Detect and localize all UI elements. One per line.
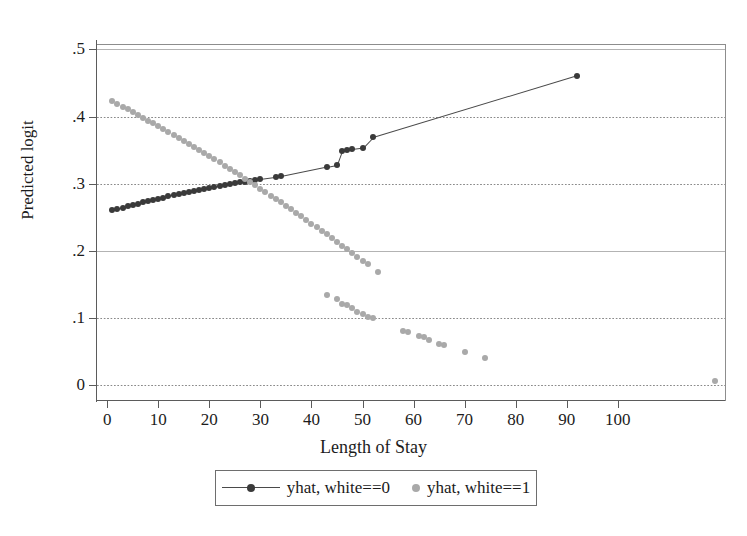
gridline-y-0.2 xyxy=(97,251,725,252)
data-point xyxy=(257,176,263,182)
legend-entry-series0[interactable]: yhat, white==0 xyxy=(222,478,390,498)
data-point xyxy=(370,134,376,140)
data-point xyxy=(334,162,340,168)
x-tick-2 xyxy=(209,400,210,408)
y-tick-4 xyxy=(89,117,97,118)
y-tick-label-0: 0 xyxy=(45,376,85,393)
data-point xyxy=(324,292,330,298)
x-tick-label-10: 100 xyxy=(588,410,648,429)
x-axis-line xyxy=(96,400,726,401)
y-tick-1 xyxy=(89,318,97,319)
series-line-segment xyxy=(373,76,578,139)
legend: yhat, white==0 yhat, white==1 xyxy=(215,470,537,506)
gridline-y-0.5 xyxy=(97,49,725,50)
data-point xyxy=(349,146,355,152)
data-point xyxy=(482,355,488,361)
data-point xyxy=(334,296,340,302)
data-point xyxy=(574,73,580,79)
y-tick-label-3: .3 xyxy=(45,175,85,192)
x-tick-4 xyxy=(311,400,312,408)
gridline-y-0.4 xyxy=(97,117,725,118)
gridline-y-0 xyxy=(97,385,725,386)
y-axis-title: Predicted logit xyxy=(18,80,38,260)
data-point xyxy=(405,329,411,335)
legend-entry-series1[interactable]: yhat, white==1 xyxy=(412,478,530,498)
y-tick-0 xyxy=(89,385,97,386)
y-tick-3 xyxy=(89,184,97,185)
y-axis-line xyxy=(96,40,97,402)
data-point xyxy=(375,269,381,275)
data-point xyxy=(441,342,447,348)
plot-area xyxy=(97,44,725,400)
gridline-y-0.1 xyxy=(97,318,725,319)
y-tick-label-5: .5 xyxy=(45,40,85,57)
y-tick-label-4: .4 xyxy=(45,108,85,125)
data-point xyxy=(426,337,432,343)
x-tick-7 xyxy=(465,400,466,408)
plot-frame-top xyxy=(97,44,725,45)
y-tick-label-2: .2 xyxy=(45,242,85,259)
legend-label-series1: yhat, white==1 xyxy=(427,478,530,498)
x-tick-5 xyxy=(363,400,364,408)
data-point xyxy=(712,378,718,384)
x-tick-3 xyxy=(260,400,261,408)
x-axis-title: Length of Stay xyxy=(0,437,747,458)
data-point xyxy=(370,315,376,321)
plot-frame-right xyxy=(725,44,726,401)
y-tick-2 xyxy=(89,251,97,252)
data-point xyxy=(278,173,284,179)
data-point xyxy=(462,349,468,355)
x-tick-0 xyxy=(107,400,108,408)
legend-key-line-marker-icon xyxy=(222,484,280,492)
data-point xyxy=(324,164,330,170)
x-tick-1 xyxy=(158,400,159,408)
x-tick-6 xyxy=(414,400,415,408)
series-line-segment xyxy=(281,167,327,177)
y-tick-label-1: .1 xyxy=(45,309,85,326)
y-tick-5 xyxy=(89,49,97,50)
x-tick-10 xyxy=(618,400,619,408)
data-point xyxy=(360,145,366,151)
legend-key-marker-icon xyxy=(412,484,420,492)
gridline-y-0.3 xyxy=(97,184,725,185)
x-tick-9 xyxy=(567,400,568,408)
legend-label-series0: yhat, white==0 xyxy=(287,478,390,498)
chart-figure: 0.1.2.3.4.5 0102030405060708090100 Predi… xyxy=(0,0,747,536)
data-point xyxy=(365,261,371,267)
x-tick-8 xyxy=(516,400,517,408)
